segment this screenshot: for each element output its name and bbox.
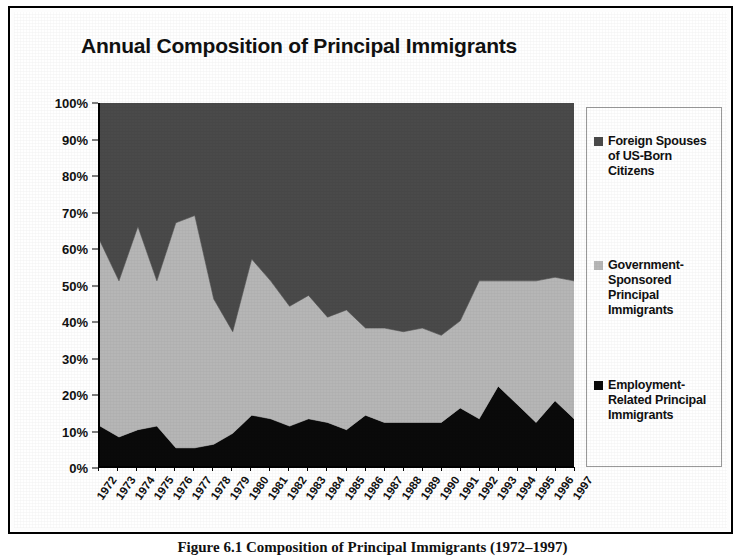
legend-swatch-icon (594, 137, 603, 146)
x-axis-tick-mark (346, 467, 347, 471)
x-axis-tick-label: 1994 (513, 474, 538, 502)
x-axis-tick-mark (441, 467, 442, 471)
x-axis-tick-mark (174, 467, 175, 471)
x-axis-tick-label: 1981 (266, 474, 291, 502)
x-axis-tick-mark (555, 467, 556, 471)
x-axis-tick-label: 1973 (113, 474, 138, 502)
x-axis-tick-label: 1972 (94, 474, 119, 502)
y-axis-tick-label: 20% (62, 388, 88, 403)
x-axis-tick-mark (117, 467, 118, 471)
x-axis-tick-label: 1991 (456, 474, 481, 502)
x-axis-tick-mark (574, 467, 575, 471)
y-axis-tick-label: 30% (62, 351, 88, 366)
x-axis-tick-mark (250, 467, 251, 471)
x-axis-tick-mark (498, 467, 499, 471)
y-axis-tick-label: 100% (55, 96, 88, 111)
plot-wrap (98, 103, 574, 468)
legend-entry[interactable]: Employment-Related Principal Immigrants (594, 378, 720, 423)
stacked-area-svg (100, 103, 574, 466)
x-axis: 1972197319741975197619771978197919801981… (98, 470, 588, 532)
legend-label: Foreign Spouses of US-Born Citizens (608, 134, 720, 179)
x-axis-tick-mark (288, 467, 289, 471)
x-axis-tick-label: 1985 (342, 474, 367, 502)
plot-area (98, 103, 574, 468)
x-axis-tick-mark (479, 467, 480, 471)
x-axis-tick-label: 1979 (228, 474, 253, 502)
y-axis: 0%10%20%30%40%50%60%70%80%90%100% (14, 103, 96, 468)
x-axis-tick-mark (136, 467, 137, 471)
x-axis-tick-mark (365, 467, 366, 471)
y-axis-tick-label: 70% (62, 205, 88, 220)
x-axis-tick-label: 1993 (494, 474, 519, 502)
x-axis-tick-mark (460, 467, 461, 471)
x-axis-tick-mark (155, 467, 156, 471)
x-axis-tick-mark (193, 467, 194, 471)
x-axis-tick-mark (212, 467, 213, 471)
x-axis-tick-label: 1984 (323, 474, 348, 502)
x-axis-tick-mark (269, 467, 270, 471)
x-axis-tick-label: 1977 (190, 474, 215, 502)
legend-entry[interactable]: Government-Sponsored Principal Immigrant… (594, 258, 720, 318)
x-axis-tick-label: 1988 (399, 474, 424, 502)
x-axis-tick-label: 1974 (132, 474, 157, 502)
x-axis-tick-label: 1990 (437, 474, 462, 502)
x-axis-tick-mark (231, 467, 232, 471)
x-axis-tick-label: 1982 (285, 474, 310, 502)
x-axis-tick-mark (384, 467, 385, 471)
x-axis-tick-mark (307, 467, 308, 471)
x-axis-tick-label: 1978 (209, 474, 234, 502)
y-axis-tick-label: 90% (62, 132, 88, 147)
y-axis-tick-label: 40% (62, 315, 88, 330)
x-axis-tick-mark (403, 467, 404, 471)
chart-title: Annual Composition of Principal Immigran… (14, 34, 584, 58)
y-axis-tick-label: 10% (62, 424, 88, 439)
legend-entry[interactable]: Foreign Spouses of US-Born Citizens (594, 134, 720, 179)
figure-caption: Figure 6.1 Composition of Principal Immi… (0, 539, 745, 556)
chart-card: Annual Composition of Principal Immigran… (14, 12, 727, 528)
x-axis-tick-mark (536, 467, 537, 471)
figure-frame: Annual Composition of Principal Immigran… (8, 6, 733, 534)
y-axis-tick-label: 50% (62, 278, 88, 293)
x-axis-tick-mark (422, 467, 423, 471)
x-axis-tick-label: 1976 (170, 474, 195, 502)
x-axis-tick-label: 1997 (570, 474, 595, 502)
x-axis-tick-label: 1983 (304, 474, 329, 502)
legend-label: Government-Sponsored Principal Immigrant… (608, 258, 720, 318)
x-axis-tick-mark (517, 467, 518, 471)
legend-swatch-icon (594, 261, 603, 270)
x-axis-tick-label: 1980 (247, 474, 272, 502)
y-axis-tick-label: 80% (62, 169, 88, 184)
chart-legend: Foreign Spouses of US-Born CitizensGover… (586, 107, 722, 467)
legend-label: Employment-Related Principal Immigrants (608, 378, 720, 423)
legend-swatch-icon (594, 381, 603, 390)
y-axis-tick-label: 60% (62, 242, 88, 257)
x-axis-tick-label: 1987 (380, 474, 405, 502)
x-axis-tick-mark (326, 467, 327, 471)
x-axis-tick-mark (98, 467, 99, 471)
y-axis-tick-label: 0% (69, 461, 88, 476)
